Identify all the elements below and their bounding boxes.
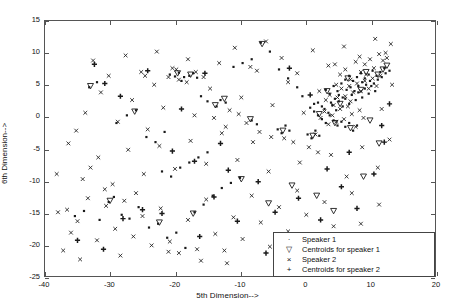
data-point-x: [343, 94, 347, 98]
data-point-dot: [203, 204, 205, 206]
data-point-plus: [192, 159, 197, 164]
x-tick: [306, 21, 307, 25]
data-point-dot: [336, 124, 338, 126]
data-point-x: [119, 254, 123, 258]
data-point-x: [372, 66, 376, 70]
data-point-x: [122, 199, 126, 203]
data-point-dot: [368, 93, 370, 95]
data-point-x: [333, 62, 337, 66]
y-tick: [45, 150, 49, 151]
data-point-x: [377, 52, 381, 56]
data-point-x: [249, 65, 253, 69]
data-point-dot: [221, 187, 223, 189]
data-point-dot: [269, 51, 271, 53]
data-point-x: [56, 210, 60, 214]
legend-item-3[interactable]: ×Speaker 2: [274, 255, 434, 265]
x-axis-title: 5th Dimension-->: [0, 291, 455, 300]
data-point-x: [286, 80, 290, 84]
data-point-x: [360, 145, 364, 149]
data-point-x: [74, 129, 78, 133]
data-point-plus: [308, 92, 313, 97]
data-point-x: [61, 249, 65, 253]
x-tick-label: -40: [39, 280, 50, 289]
data-point-dot: [365, 84, 367, 86]
data-point-x: [302, 111, 306, 115]
data-point-dot: [121, 214, 123, 216]
data-point-x: [329, 153, 333, 157]
data-point-plus: [287, 66, 292, 71]
data-point-x: [232, 215, 236, 219]
x-tick: [176, 272, 177, 276]
data-point-plus: [256, 179, 261, 184]
data-point-triangle-down: [331, 208, 337, 213]
data-point-dot: [154, 141, 156, 143]
data-point-x: [142, 172, 146, 176]
data-point-x: [334, 83, 338, 87]
data-point-dot: [364, 77, 366, 79]
data-point-x: [217, 61, 221, 65]
x-tick: [241, 21, 242, 25]
data-point-x: [177, 251, 181, 255]
x-tick: [437, 272, 438, 276]
data-point-x: [267, 170, 271, 174]
data-point-dot: [301, 95, 303, 97]
data-point-dot: [296, 86, 298, 88]
data-point-x: [390, 83, 394, 87]
data-point-dot: [307, 133, 309, 135]
data-point-x: [212, 116, 216, 120]
data-point-x: [319, 116, 323, 120]
data-point-x: [89, 166, 93, 170]
data-point-x: [298, 161, 302, 165]
data-point-x: [282, 136, 286, 140]
series-speaker-2: [55, 37, 394, 265]
data-point-x: [351, 91, 355, 95]
x-tick: [372, 21, 373, 25]
data-point-dot: [166, 237, 168, 239]
data-point-x: [177, 78, 181, 82]
data-point-x: [371, 76, 375, 80]
data-point-x: [258, 130, 262, 134]
data-point-plus: [273, 210, 278, 215]
data-point-dot: [344, 126, 346, 128]
data-point-dot: [329, 114, 331, 116]
data-point-plus: [339, 184, 344, 189]
x-tick-label: 0: [303, 280, 307, 289]
data-point-triangle-down: [221, 96, 227, 101]
data-point-triangle-down: [259, 41, 265, 46]
triangle-down-marker-icon: ▽: [276, 245, 302, 255]
data-point-x: [146, 127, 150, 131]
legend-item-1[interactable]: ·Speaker 1: [274, 235, 434, 245]
data-point-dot: [368, 73, 370, 75]
data-point-dot: [256, 123, 258, 125]
legend-item-2[interactable]: ▽Centroids for speaker 1: [274, 245, 434, 255]
data-point-x: [323, 110, 327, 114]
data-point-plus: [318, 217, 323, 222]
data-point-dot: [313, 103, 315, 105]
data-point-x: [167, 75, 171, 79]
data-point-plus: [371, 171, 376, 176]
data-point-dot: [313, 110, 315, 112]
legend-item-4[interactable]: +Centroids for speaker 2: [274, 265, 434, 275]
data-point-x: [69, 231, 73, 235]
data-point-dot: [225, 102, 227, 104]
data-point-x: [377, 203, 381, 207]
data-point-x: [268, 245, 272, 249]
data-point-x: [78, 258, 82, 262]
data-point-x: [389, 42, 393, 46]
data-point-dot: [196, 77, 198, 79]
data-point-plus: [170, 148, 175, 153]
data-point-dot: [352, 130, 354, 132]
data-point-x: [363, 79, 367, 83]
data-point-x: [204, 198, 208, 202]
data-point-dot: [374, 90, 376, 92]
data-point-dot: [219, 99, 221, 101]
data-point-dot: [355, 99, 357, 101]
data-point-x: [367, 87, 371, 91]
data-point-x: [358, 108, 362, 112]
y-tick: [45, 182, 49, 183]
data-point-plus: [235, 219, 240, 224]
data-point-x: [152, 83, 156, 87]
dot-marker-icon: ·: [276, 235, 302, 245]
data-point-dot: [128, 218, 130, 220]
data-point-x: [354, 125, 358, 129]
